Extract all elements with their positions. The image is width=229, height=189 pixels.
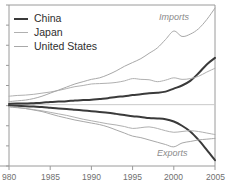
chart-container: 98019851990199520002005 China Japan Unit… xyxy=(0,0,229,189)
legend-swatch-japan-icon xyxy=(14,32,28,33)
legend-swatch-united-states-icon xyxy=(14,46,28,47)
legend-label-japan: Japan xyxy=(34,27,63,38)
legend-item-china[interactable]: China xyxy=(14,12,97,25)
legend-item-united-states[interactable]: United States xyxy=(14,40,97,53)
legend-label-united-states: United States xyxy=(34,41,97,52)
annotation-imports: Imports xyxy=(159,12,189,22)
legend-label-china: China xyxy=(34,13,61,24)
chart-legend: China Japan United States xyxy=(14,12,97,54)
legend-swatch-china-icon xyxy=(14,18,28,20)
legend-item-japan[interactable]: Japan xyxy=(14,26,97,39)
annotation-exports: Exports xyxy=(157,148,188,158)
